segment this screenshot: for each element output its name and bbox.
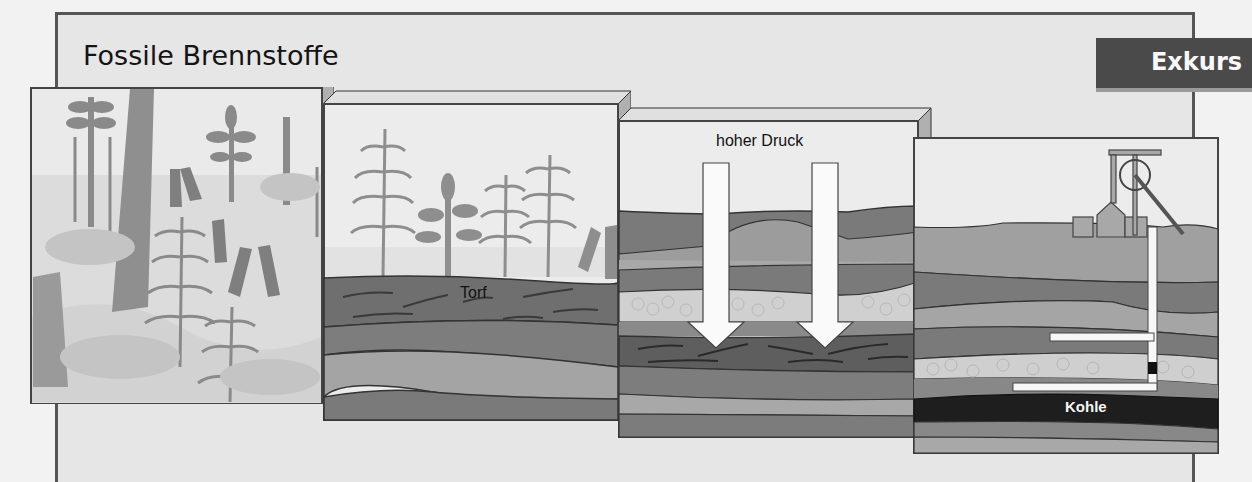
- label-hoher-druck: hoher Druck: [716, 132, 803, 150]
- label-torf: Torf: [460, 284, 487, 302]
- panel-peat: Torf: [323, 87, 631, 421]
- panel-mine: Kohle: [913, 137, 1220, 455]
- panel-forest: [30, 87, 334, 407]
- page-title: Fossile Brennstoffe: [83, 40, 339, 71]
- panel-pressure: hoher Druck: [618, 104, 932, 439]
- exkurs-badge-label: Exkurs: [1151, 48, 1242, 76]
- label-kohle: Kohle: [1065, 398, 1107, 415]
- exkurs-badge: Exkurs: [1096, 38, 1252, 88]
